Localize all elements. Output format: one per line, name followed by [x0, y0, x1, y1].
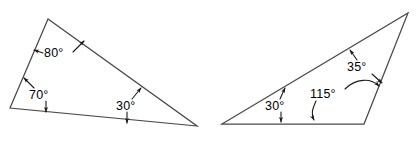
left-triangle-outline: [10, 19, 197, 126]
right-angle-115-label: 115°: [310, 87, 336, 101]
left-angle-80-label: 80°: [44, 46, 64, 60]
left-angle-70-label: 70°: [29, 88, 49, 102]
left-angle-30-label: 30°: [116, 99, 136, 113]
left-triangle: 80° 70° 30°: [10, 19, 197, 126]
right-triangle-outline: [222, 13, 408, 124]
figure-canvas: 80° 70° 30° 30° 35° 115°: [0, 0, 417, 141]
right-angle-35-label: 35°: [347, 60, 367, 74]
geometry-figure: 80° 70° 30° 30° 35° 115°: [0, 0, 417, 141]
right-angle-30-label: 30°: [265, 99, 285, 113]
right-triangle: 30° 35° 115°: [222, 13, 408, 124]
